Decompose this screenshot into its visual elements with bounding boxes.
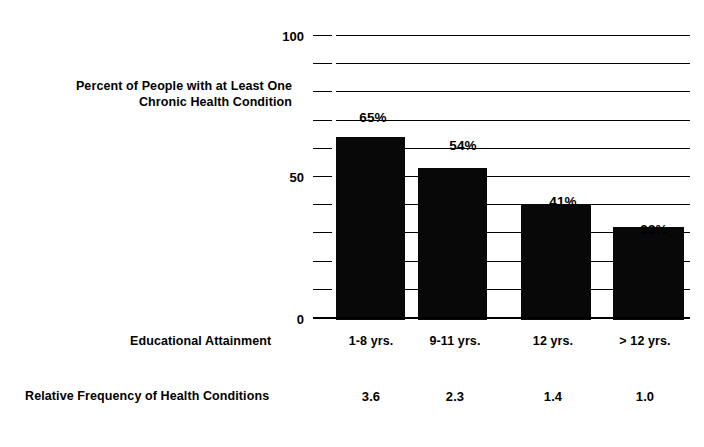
- bar-1-8-yrs: [336, 137, 405, 320]
- y-axis-title: Percent of People with at Least One Chro…: [30, 78, 292, 110]
- x-axis-label: Educational Attainment: [130, 334, 271, 348]
- ytick-100: 100: [313, 35, 332, 36]
- relative-frequency-label: Relative Frequency of Health Conditions: [25, 389, 269, 403]
- ytick-10: [313, 289, 332, 290]
- x-axis-baseline: 0: [313, 317, 690, 319]
- ytick-70: [313, 120, 332, 121]
- relative-frequency-value-3: 1.4: [544, 389, 562, 404]
- plot-area: 100 50 0 65% 54% 41% 33%: [313, 30, 690, 320]
- relative-frequency-value-1: 3.6: [362, 389, 380, 404]
- y-axis-title-line-1: Percent of People with at Least One: [30, 78, 292, 94]
- bar-value-1-8-yrs: 65%: [359, 110, 387, 125]
- relative-frequency-value-4: 1.0: [636, 389, 654, 404]
- chart-figure: Percent of People with at Least One Chro…: [0, 0, 704, 447]
- ytick-80: [313, 91, 332, 92]
- bar-value-12-yrs: 41%: [549, 194, 577, 209]
- bar-value-9-11-yrs: 54%: [449, 138, 477, 153]
- relative-frequency-value-2: 2.3: [446, 389, 464, 404]
- ytick-label-50: 50: [290, 170, 304, 185]
- ytick-60: [313, 148, 332, 149]
- ytick-50: 50: [313, 176, 332, 177]
- ytick-label-100: 100: [282, 29, 304, 44]
- gridline-80: [336, 91, 690, 92]
- ytick-40: [313, 204, 332, 205]
- bar-12-yrs: [521, 204, 591, 320]
- gridline-90: [336, 63, 690, 64]
- gridline-70: [336, 120, 690, 121]
- bar-9-11-yrs: [418, 168, 487, 320]
- bar-value-gt-12-yrs: 33%: [640, 222, 668, 237]
- x-tick-label-gt-12-yrs: > 12 yrs.: [619, 334, 670, 348]
- x-tick-label-9-11-yrs: 9-11 yrs.: [430, 334, 481, 348]
- x-tick-label-12-yrs: 12 yrs.: [533, 334, 573, 348]
- x-tick-label-1-8-yrs: 1-8 yrs.: [349, 334, 394, 348]
- ytick-30: [313, 232, 332, 233]
- gridline-100: [336, 35, 690, 36]
- ytick-20: [313, 261, 332, 262]
- y-axis-title-line-2: Chronic Health Condition: [30, 94, 292, 110]
- bar-gt-12-yrs: [613, 227, 684, 320]
- ytick-90: [313, 63, 332, 64]
- ytick-label-0: 0: [297, 312, 304, 327]
